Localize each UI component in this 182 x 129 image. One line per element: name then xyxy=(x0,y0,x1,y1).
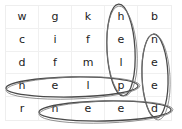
grid-cell-r1-c0[interactable]: c xyxy=(6,29,39,52)
grid-cell-r2-c1[interactable]: f xyxy=(39,52,72,75)
grid-cell-r2-c2[interactable]: m xyxy=(72,52,105,75)
grid-cell-r2-c4[interactable]: e xyxy=(138,52,171,75)
grid-cell-r1-c1[interactable]: i xyxy=(39,29,72,52)
grid-cell-r0-c4[interactable]: b xyxy=(138,6,171,29)
grid-cell-r3-c3[interactable]: p xyxy=(105,74,138,97)
grid-cell-r0-c0[interactable]: w xyxy=(6,6,39,29)
grid-cell-r3-c0[interactable]: h xyxy=(6,74,39,97)
letter-grid: w g k h b c i f e n d f m l e h e l p e … xyxy=(5,5,172,121)
grid-cell-r1-c2[interactable]: f xyxy=(72,29,105,52)
grid-cell-r1-c3[interactable]: e xyxy=(105,29,138,52)
grid-cell-r0-c1[interactable]: g xyxy=(39,6,72,29)
grid-cell-r4-c1[interactable]: n xyxy=(39,97,72,120)
grid-cell-r0-c3[interactable]: h xyxy=(105,6,138,29)
grid-cell-r4-c0[interactable]: r xyxy=(6,97,39,120)
grid-cell-r2-c3[interactable]: l xyxy=(105,52,138,75)
grid-cell-r4-c3[interactable]: e xyxy=(105,97,138,120)
grid-cell-r4-c4[interactable]: d xyxy=(138,97,171,120)
grid-cell-r3-c2[interactable]: l xyxy=(72,74,105,97)
grid-cell-r0-c2[interactable]: k xyxy=(72,6,105,29)
grid-cell-r1-c4[interactable]: n xyxy=(138,29,171,52)
grid-cell-r4-c2[interactable]: e xyxy=(72,97,105,120)
grid-cell-r3-c1[interactable]: e xyxy=(39,74,72,97)
grid-cell-r3-c4[interactable]: e xyxy=(138,74,171,97)
grid-cell-r2-c0[interactable]: d xyxy=(6,52,39,75)
word-search-puzzle: w g k h b c i f e n d f m l e h e l p e … xyxy=(5,5,172,121)
